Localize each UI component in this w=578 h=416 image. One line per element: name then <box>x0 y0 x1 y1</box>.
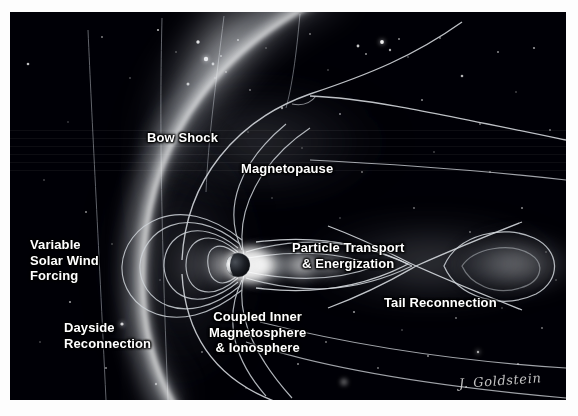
magnetosphere-figure: Bow Shock Magnetopause Variable Solar Wi… <box>0 0 578 416</box>
plasmoid-glow <box>450 238 554 290</box>
space-canvas: Bow Shock Magnetopause Variable Solar Wi… <box>10 12 566 400</box>
earth <box>224 251 252 279</box>
magnetosphere-artwork <box>10 12 566 400</box>
